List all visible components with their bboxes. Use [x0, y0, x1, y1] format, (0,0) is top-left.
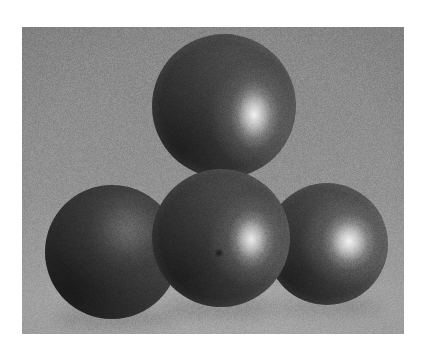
page-canvas: Four dark gray spheres clustered in a py… — [0, 0, 429, 358]
sphere-top — [152, 34, 296, 178]
sphere-center — [152, 169, 290, 307]
sphere-top-shading — [152, 34, 296, 178]
sphere-center-shading — [152, 169, 290, 307]
center-dot — [216, 250, 222, 256]
photograph — [22, 27, 404, 334]
